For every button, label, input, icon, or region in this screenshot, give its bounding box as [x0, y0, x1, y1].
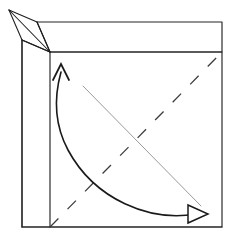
- fold-direction-arrow-curve: [57, 72, 196, 216]
- top-band-outline: [37, 22, 222, 52]
- flap-apex-to-corner-line: [9, 10, 50, 52]
- main-sheet-outline: [22, 40, 222, 227]
- fold-diagram: [0, 0, 231, 249]
- diagram-canvas: [0, 0, 231, 249]
- arrow-head-right-icon: [188, 205, 208, 223]
